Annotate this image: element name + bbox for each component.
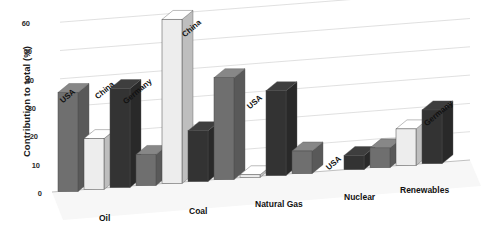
category-label: Natural Gas	[255, 199, 303, 209]
bar-chart: Contribution to total (%) 6050403020100 …	[0, 0, 483, 242]
bar	[214, 69, 245, 180]
category-label: Nuclear	[344, 192, 375, 202]
category-label: Coal	[189, 206, 207, 216]
category-label: Renewables	[400, 185, 449, 195]
plot-area	[0, 0, 483, 242]
category-label: Oil	[99, 213, 110, 223]
